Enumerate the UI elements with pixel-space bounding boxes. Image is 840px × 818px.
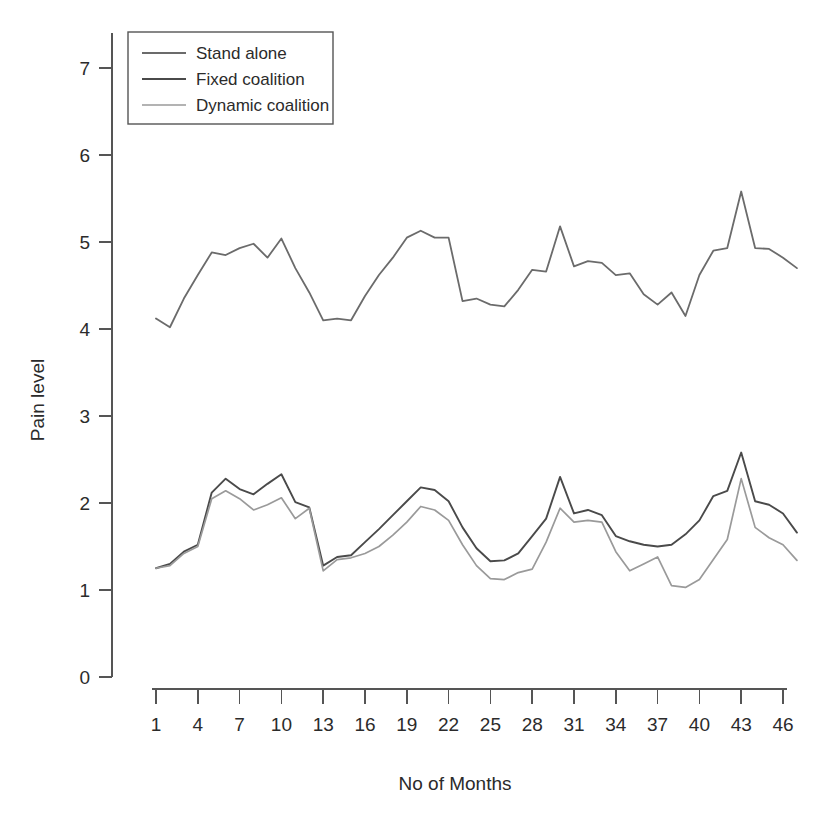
x-tick-label: 13 bbox=[313, 714, 334, 735]
chart-canvas: 01234567 14710131619222528313437404346 S… bbox=[0, 0, 840, 818]
y-tick-label: 6 bbox=[79, 145, 90, 166]
x-tick-label: 37 bbox=[647, 714, 668, 735]
x-tick-label: 22 bbox=[438, 714, 459, 735]
y-axis: 01234567 bbox=[79, 33, 112, 688]
x-tick-label: 7 bbox=[234, 714, 245, 735]
y-tick-label: 0 bbox=[79, 667, 90, 688]
x-tick-label: 34 bbox=[605, 714, 627, 735]
y-tick-label: 1 bbox=[79, 580, 90, 601]
x-axis-title: No of Months bbox=[399, 773, 512, 794]
y-tick-label: 2 bbox=[79, 493, 90, 514]
x-tick-label: 28 bbox=[522, 714, 543, 735]
x-tick-label: 10 bbox=[271, 714, 292, 735]
series-line-fixed-coalition bbox=[156, 453, 797, 569]
legend-label: Stand alone bbox=[196, 44, 287, 63]
y-axis-title: Pain level bbox=[27, 359, 48, 441]
legend-label: Dynamic coalition bbox=[196, 96, 329, 115]
chart-legend: Stand aloneFixed coalitionDynamic coalit… bbox=[128, 32, 333, 124]
y-tick-label: 5 bbox=[79, 232, 90, 253]
x-tick-label: 16 bbox=[354, 714, 375, 735]
y-tick-label: 7 bbox=[79, 58, 90, 79]
series-lines bbox=[156, 192, 797, 588]
x-tick-label: 4 bbox=[193, 714, 204, 735]
series-line-dynamic-coalition bbox=[156, 479, 797, 588]
chart-figure: 01234567 14710131619222528313437404346 S… bbox=[0, 0, 840, 818]
x-tick-label: 40 bbox=[689, 714, 710, 735]
x-tick-label: 46 bbox=[772, 714, 793, 735]
x-tick-label: 43 bbox=[731, 714, 752, 735]
legend-label: Fixed coalition bbox=[196, 70, 305, 89]
x-tick-label: 19 bbox=[396, 714, 417, 735]
series-line-stand-alone bbox=[156, 192, 797, 328]
x-tick-label: 1 bbox=[151, 714, 162, 735]
x-tick-label: 25 bbox=[480, 714, 501, 735]
x-axis: 14710131619222528313437404346 bbox=[151, 689, 794, 735]
x-tick-label: 31 bbox=[563, 714, 584, 735]
y-tick-label: 3 bbox=[79, 406, 90, 427]
y-tick-label: 4 bbox=[79, 319, 90, 340]
